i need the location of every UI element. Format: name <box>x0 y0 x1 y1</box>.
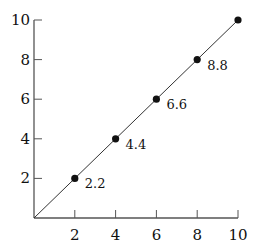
point-label: 2.2 <box>85 176 106 191</box>
ticks: 246810246810 <box>11 11 248 244</box>
data-point <box>71 175 78 182</box>
data-series <box>34 16 242 218</box>
x-tick-label: 6 <box>152 226 162 244</box>
chart-svg: 246810246810 2.24.46.68.8 <box>0 0 261 248</box>
y-tick-label: 8 <box>20 51 30 69</box>
x-tick-label: 10 <box>228 226 247 244</box>
data-point <box>194 56 201 63</box>
y-tick-label: 10 <box>11 11 30 29</box>
point-label: 8.8 <box>207 58 228 73</box>
data-point <box>153 96 160 103</box>
data-point <box>234 16 241 23</box>
y-tick-label: 2 <box>20 169 30 187</box>
x-tick-label: 4 <box>111 226 121 244</box>
chart: 246810246810 2.24.46.68.8 <box>0 0 261 248</box>
x-tick-label: 2 <box>70 226 80 244</box>
data-point <box>112 135 119 142</box>
y-tick-label: 4 <box>20 130 30 148</box>
annotations: 2.24.46.68.8 <box>85 58 228 192</box>
x-tick-label: 8 <box>192 226 202 244</box>
y-tick-label: 6 <box>20 90 30 108</box>
series-line <box>34 20 238 218</box>
point-label: 6.6 <box>166 97 187 112</box>
point-label: 4.4 <box>126 137 147 152</box>
